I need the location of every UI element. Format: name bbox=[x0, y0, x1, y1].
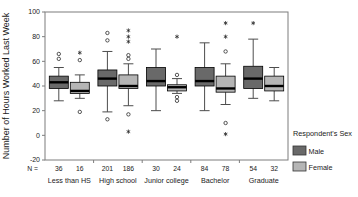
boxplot-svg: -20020406080100Number of Hours Worked La… bbox=[0, 0, 358, 197]
box-male-3 bbox=[195, 68, 214, 87]
category-label: Less than HS bbox=[48, 176, 91, 185]
n-value-label: 30 bbox=[152, 165, 160, 172]
n-value-label: 186 bbox=[123, 165, 135, 172]
n-value-label: 24 bbox=[173, 165, 181, 172]
y-tick-label: 100 bbox=[28, 8, 40, 15]
outlier-circle bbox=[106, 39, 109, 42]
outlier-circle bbox=[78, 110, 81, 113]
category-label: Graduate bbox=[249, 176, 279, 185]
outlier-circle bbox=[106, 118, 109, 121]
legend-label-female: Female bbox=[309, 163, 333, 172]
n-value-label: 36 bbox=[55, 165, 63, 172]
box-male-2 bbox=[147, 68, 166, 87]
outlier-circle bbox=[57, 52, 60, 55]
n-value-label: 54 bbox=[249, 165, 257, 172]
outlier-circle bbox=[175, 99, 178, 102]
outlier-circle bbox=[106, 31, 109, 34]
legend-label-male: Male bbox=[309, 147, 325, 156]
boxplot-chart: -20020406080100Number of Hours Worked La… bbox=[0, 0, 358, 197]
box-female-4 bbox=[265, 76, 284, 91]
y-axis-title: Number of Hours Worked Last Week bbox=[1, 12, 11, 159]
y-tick-label: -20 bbox=[30, 156, 40, 163]
category-label: High school bbox=[99, 176, 137, 185]
box-male-4 bbox=[244, 66, 263, 88]
outlier-circle bbox=[127, 53, 130, 56]
outlier-circle bbox=[224, 121, 227, 124]
outlier-circle bbox=[127, 113, 130, 116]
box-female-3 bbox=[216, 76, 235, 92]
y-tick-label: 0 bbox=[36, 132, 40, 139]
y-tick-label: 20 bbox=[32, 107, 40, 114]
y-tick-label: 40 bbox=[32, 82, 40, 89]
y-tick-label: 60 bbox=[32, 58, 40, 65]
legend-swatch-male bbox=[293, 146, 306, 155]
outlier-circle bbox=[127, 57, 130, 60]
n-value-label: 32 bbox=[270, 165, 278, 172]
category-label: Junior college bbox=[144, 176, 188, 185]
outlier-circle bbox=[78, 58, 81, 61]
outlier-circle bbox=[57, 57, 60, 60]
legend-title: Respondent's Sex bbox=[293, 129, 352, 138]
n-value-label: 84 bbox=[201, 165, 209, 172]
n-prefix-label: N = bbox=[27, 165, 38, 172]
y-tick-label: 80 bbox=[32, 33, 40, 40]
outlier-circle bbox=[224, 50, 227, 53]
n-value-label: 78 bbox=[222, 165, 230, 172]
outlier-circle bbox=[175, 95, 178, 98]
n-value-label: 201 bbox=[102, 165, 114, 172]
n-value-label: 16 bbox=[76, 165, 84, 172]
outlier-circle bbox=[175, 73, 178, 76]
category-label: Bachelor bbox=[201, 176, 230, 185]
legend-swatch-female bbox=[293, 162, 306, 171]
